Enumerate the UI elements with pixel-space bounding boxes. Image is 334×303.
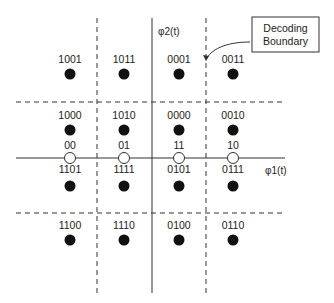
hollow-axis-point [228,153,239,164]
axis-point-label: 01 [118,139,130,151]
vertical-axis-label: φ2(t) [158,26,179,37]
filled-constellation-point [119,181,130,192]
hollow-axis-point [174,153,185,164]
filled-constellation-point [65,235,76,246]
horizontal-axis-label: φ1(t) [265,165,286,176]
axis-point-label: 11 [174,139,185,151]
filled-constellation-point [65,69,76,80]
point-label: 1111 [113,163,134,175]
filled-constellation-point [228,181,239,192]
hollow-axis-point [65,153,76,164]
filled-constellation-point [228,69,239,80]
point-label: 1000 [58,109,82,121]
point-label: 0100 [167,219,191,231]
filled-constellation-point [174,235,185,246]
filled-constellation-point [174,69,185,80]
filled-constellation-point [119,235,130,246]
callout-line-2: Boundary [263,35,309,47]
filled-constellation-point [65,181,76,192]
filled-constellation-point [228,125,239,136]
point-label: 1101 [59,163,82,175]
constellation-diagram: φ2(t) φ1(t) Decoding Boundary 1001101100… [0,0,334,303]
point-label: 1110 [113,219,135,231]
point-label: 0111 [222,163,244,175]
callout-line-1: Decoding [263,22,308,34]
filled-constellation-point [119,125,130,136]
point-label: 0110 [222,219,245,231]
filled-constellation-point [65,125,76,136]
filled-constellation-point [174,125,185,136]
point-label: 1100 [59,219,82,231]
point-label: 0101 [167,163,191,175]
filled-constellation-point [174,181,185,192]
filled-constellation-point [228,235,239,246]
arrow-head-icon [203,55,209,61]
point-label: 0010 [221,109,245,121]
axis-point-label: 10 [227,139,239,151]
point-label: 1011 [113,53,136,65]
hollow-axis-point [119,153,130,164]
point-label: 0001 [167,53,191,65]
point-label: 0000 [167,109,191,121]
point-label: 0011 [222,53,245,65]
filled-constellation-point [119,69,130,80]
point-label: 1010 [112,109,136,121]
point-label: 1001 [58,53,82,65]
axis-point-label: 00 [64,139,76,151]
